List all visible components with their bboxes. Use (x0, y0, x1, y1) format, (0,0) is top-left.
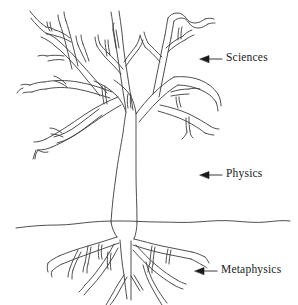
arrow-left-icon-sciences (200, 56, 222, 63)
label-metaphysics: Metaphysics (221, 264, 281, 276)
label-physics: Physics (226, 168, 263, 180)
arrow-left-icon-metaphysics (195, 268, 217, 275)
tree-roots (47, 222, 209, 305)
arrow-left-icon-physics (200, 172, 222, 179)
tree-trunk (111, 112, 137, 222)
ground-line (16, 221, 290, 228)
label-sciences: Sciences (226, 52, 268, 64)
tree-illustration (0, 0, 298, 305)
tree-of-knowledge-figure: Sciences Physics Metaphysics (0, 0, 298, 305)
tree-branches (17, 11, 221, 159)
